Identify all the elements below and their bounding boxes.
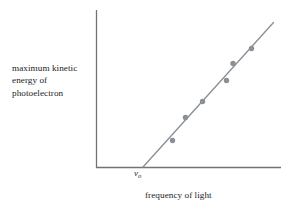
data-point xyxy=(183,115,188,120)
data-point xyxy=(224,78,229,83)
threshold-subscript: o xyxy=(138,172,142,179)
photoelectric-effect-figure: maximum kinetic energy of photoelectron … xyxy=(0,0,295,214)
data-point xyxy=(170,138,175,143)
data-point xyxy=(230,61,235,66)
y-axis-label-line-2: energy of xyxy=(12,74,77,86)
y-axis-label-line-1: maximum kinetic xyxy=(12,62,77,74)
plot-canvas xyxy=(0,0,295,214)
x-axis-label: frequency of light xyxy=(145,189,212,201)
best-fit-line xyxy=(143,23,274,168)
data-point xyxy=(249,46,254,51)
y-axis-label-line-3: photoelectron xyxy=(12,87,77,99)
data-point xyxy=(200,99,205,104)
y-axis-label: maximum kinetic energy of photoelectron xyxy=(12,62,77,99)
threshold-frequency-label: νo xyxy=(134,168,142,179)
